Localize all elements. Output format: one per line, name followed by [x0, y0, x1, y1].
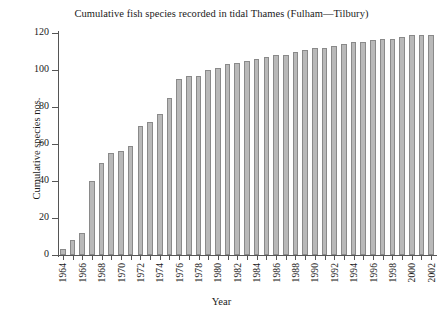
bar: [108, 153, 114, 255]
bar: [157, 114, 163, 255]
bar: [380, 39, 386, 255]
x-axis-tick-label: 1996: [369, 263, 379, 282]
x-axis-tick-mark: [305, 255, 306, 260]
x-axis-tick: [131, 255, 132, 260]
y-axis-tick-label: 40: [39, 174, 49, 185]
bar: [99, 163, 105, 256]
x-axis-tick-mark: [266, 255, 267, 260]
y-axis-tick-label: 60: [39, 137, 49, 148]
bar: [225, 64, 231, 255]
x-axis-tick: 1966: [82, 255, 83, 260]
bar: [196, 76, 202, 255]
x-axis-tick: 1994: [354, 255, 355, 260]
x-axis-tick: [402, 255, 403, 260]
bar: [147, 122, 153, 255]
x-axis-tick: 1976: [179, 255, 180, 260]
x-axis-tick-mark: [295, 255, 296, 260]
x-axis-tick-mark: [63, 255, 64, 260]
bar: [79, 233, 85, 255]
x-axis-tick-label: 1990: [310, 263, 320, 282]
x-axis-tick: 1996: [373, 255, 374, 260]
x-axis-tick: 1978: [199, 255, 200, 260]
x-axis-tick-mark: [325, 255, 326, 260]
bar: [370, 40, 376, 255]
x-axis-tick-mark: [160, 255, 161, 260]
y-axis-tick-mark: [52, 255, 58, 256]
bar: [176, 79, 182, 255]
x-axis-tick: [169, 255, 170, 260]
x-axis-tick-mark: [402, 255, 403, 260]
x-axis-tick: 1980: [218, 255, 219, 260]
bar: [399, 37, 405, 255]
x-axis-tick: 1982: [237, 255, 238, 260]
x-axis-tick: 1984: [257, 255, 258, 260]
chart-title: Cumulative fish species recorded in tida…: [0, 8, 443, 19]
bar: [60, 249, 66, 255]
x-axis-tick-mark: [383, 255, 384, 260]
x-axis-tick: 2002: [431, 255, 432, 260]
x-axis-tick: [325, 255, 326, 260]
x-axis-tick-mark: [199, 255, 200, 260]
x-axis-tick: 1990: [315, 255, 316, 260]
bar: [186, 76, 192, 255]
x-axis-tick: [286, 255, 287, 260]
x-axis-tick-mark: [421, 255, 422, 260]
x-axis-title: Year: [0, 296, 443, 307]
x-axis-tick: 1970: [121, 255, 122, 260]
x-axis-tick: 1988: [295, 255, 296, 260]
x-axis-tick-label: 1966: [78, 263, 88, 282]
y-axis-tick-label: 0: [44, 248, 49, 259]
x-axis-tick: [208, 255, 209, 260]
x-axis-tick-mark: [208, 255, 209, 260]
x-axis-tick-label: 1964: [58, 263, 68, 282]
x-axis-tick-mark: [276, 255, 277, 260]
x-axis-tick-label: 1998: [388, 263, 398, 282]
chart-figure: Cumulative fish species recorded in tida…: [0, 0, 443, 320]
x-axis-tick-mark: [73, 255, 74, 260]
x-axis-tick: 1998: [392, 255, 393, 260]
y-axis-tick-label: 20: [39, 211, 49, 222]
x-axis-tick-label: 1982: [233, 263, 243, 282]
x-axis-tick-label: 1980: [213, 263, 223, 282]
x-axis-tick-label: 1974: [155, 263, 165, 282]
x-axis-tick-mark: [121, 255, 122, 260]
bar: [215, 68, 221, 255]
x-axis-tick-label: 2002: [427, 263, 437, 282]
bar: [312, 48, 318, 255]
x-axis-tick: [189, 255, 190, 260]
y-axis-tick-label: 100: [34, 63, 49, 74]
x-axis-tick-label: 1976: [175, 263, 185, 282]
x-axis-tick-mark: [315, 255, 316, 260]
y-axis-tick-label: 120: [34, 26, 49, 37]
bar: [128, 146, 134, 255]
x-axis-tick: [383, 255, 384, 260]
x-axis-tick: [92, 255, 93, 260]
x-axis-tick: [266, 255, 267, 260]
bar: [302, 50, 308, 255]
x-axis-tick-mark: [111, 255, 112, 260]
y-axis-tick: 0: [52, 255, 58, 256]
bar: [205, 70, 211, 255]
x-axis-tick-label: 1988: [291, 263, 301, 282]
bar: [244, 61, 250, 255]
x-axis-tick: 1964: [63, 255, 64, 260]
x-axis-tick-mark: [363, 255, 364, 260]
bar: [428, 35, 434, 255]
bar: [390, 39, 396, 255]
x-axis-tick-mark: [140, 255, 141, 260]
x-axis-tick-mark: [189, 255, 190, 260]
bar: [341, 44, 347, 255]
x-axis-tick-mark: [412, 255, 413, 260]
x-axis-tick-label: 1968: [97, 263, 107, 282]
x-axis-tick-mark: [431, 255, 432, 260]
bar: [167, 98, 173, 255]
x-axis-tick-mark: [286, 255, 287, 260]
x-axis-tick-mark: [228, 255, 229, 260]
bar: [360, 42, 366, 255]
x-axis-tick: 1972: [140, 255, 141, 260]
x-axis-tick-label: 1984: [252, 263, 262, 282]
x-axis-tick-mark: [392, 255, 393, 260]
x-axis-tick-mark: [169, 255, 170, 260]
x-axis-tick-mark: [150, 255, 151, 260]
bar: [118, 151, 124, 255]
